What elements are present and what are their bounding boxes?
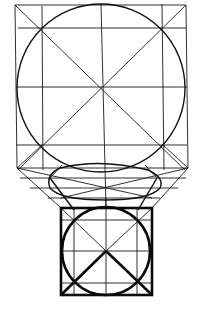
top-grid	[16, 4, 187, 208]
bottom-bold-diagonals	[62, 251, 151, 294]
diagram-svg	[0, 0, 208, 309]
construction-diagram	[0, 0, 208, 309]
